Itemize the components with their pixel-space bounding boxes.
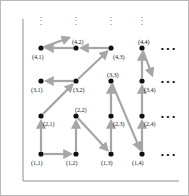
figure-container: (1,1)(1,2)(1,3)(1,4)(2,1)(2,2)(2,3)(2,4)… (0, 0, 189, 196)
lattice-node (139, 151, 144, 156)
arrow-layer (41, 38, 152, 154)
node-label: (4,1) (32, 54, 43, 60)
node-label: (2,4) (144, 121, 155, 127)
lattice-node (73, 78, 78, 83)
horizontal-ellipsis-icon: • • • (161, 151, 176, 159)
path-arrow (112, 84, 140, 150)
lattice-node (108, 78, 113, 83)
vertical-ellipsis-icon: ... (138, 14, 146, 24)
lattice-node (73, 113, 78, 118)
node-label: (1,3) (101, 160, 112, 166)
vertical-ellipsis-icon: ... (107, 14, 115, 24)
node-label: (3,2) (73, 87, 84, 93)
node-label: (2,3) (113, 121, 124, 127)
node-label: (1,1) (31, 160, 42, 166)
node-label: (3,1) (31, 87, 42, 93)
node-label: (1,2) (66, 160, 77, 166)
lattice-node (108, 113, 113, 118)
lattice-node (73, 151, 78, 156)
node-label: (4,2) (72, 39, 83, 45)
node-label: (1,4) (132, 160, 143, 166)
lattice-node (139, 78, 144, 83)
lattice-node (38, 113, 43, 118)
horizontal-ellipsis-icon: • • • (161, 78, 176, 86)
horizontal-ellipsis-icon: • • • (161, 45, 176, 53)
node-label: (2,1) (43, 121, 54, 127)
vertical-ellipsis-icon: ... (72, 14, 80, 24)
path-arrow (78, 118, 108, 150)
lattice-node (108, 151, 113, 156)
lattice-node (139, 113, 144, 118)
lattice-node (38, 45, 43, 50)
lattice-node (38, 78, 43, 83)
node-layer (38, 45, 144, 156)
path-arrow (78, 51, 107, 79)
path-arrow (43, 84, 72, 113)
axis-frame (23, 19, 179, 181)
lattice-node (73, 45, 78, 50)
node-label: (4,4) (138, 39, 149, 45)
horizontal-ellipsis-icon: • • • (161, 113, 176, 121)
node-label: (2,2) (75, 107, 86, 113)
path-arrow (143, 51, 152, 76)
node-label: (3,3) (107, 72, 118, 78)
node-label: (4,3) (113, 54, 124, 60)
vertical-ellipsis-icon: ... (37, 14, 45, 24)
path-arrow (44, 38, 70, 47)
lattice-node (139, 45, 144, 50)
diagram-canvas (1, 1, 189, 196)
lattice-node (108, 45, 113, 50)
node-label: (3,4) (144, 87, 155, 93)
lattice-node (38, 151, 43, 156)
